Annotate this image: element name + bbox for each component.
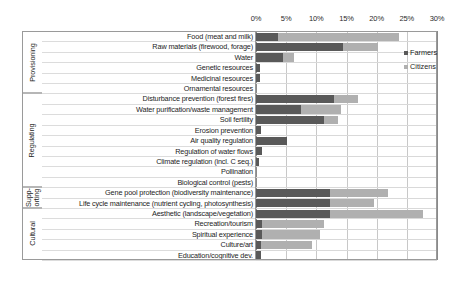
frame-left-edge xyxy=(22,31,23,260)
group-label: Provisioning xyxy=(28,43,37,82)
legend-label: Farmers xyxy=(410,48,437,57)
bar-farmers xyxy=(256,137,287,145)
bar-farmers xyxy=(256,105,301,113)
bar-farmers xyxy=(256,230,262,238)
bar-farmers xyxy=(256,33,278,41)
x-tick-label: 5% xyxy=(281,14,292,23)
label-divider xyxy=(255,31,256,260)
group-bracket: Cultural xyxy=(22,208,42,260)
category-axis: Food (meat and milk)Raw materials (firew… xyxy=(0,31,256,260)
x-tick-label: 25% xyxy=(399,14,414,23)
legend-swatch xyxy=(404,65,408,69)
x-tick-label: 0% xyxy=(251,14,262,23)
bar-farmers xyxy=(256,241,261,249)
bar-citizens xyxy=(256,241,312,249)
group-label: Cultural xyxy=(28,222,37,246)
bar-farmers xyxy=(256,43,343,51)
bar-farmers xyxy=(256,199,330,207)
x-tick-label: 20% xyxy=(369,14,384,23)
bar-farmers xyxy=(256,220,262,228)
legend-item: Farmers xyxy=(404,47,437,58)
group-bracket: Supp-orting xyxy=(22,187,42,208)
category-label: Education/cognitive dev. xyxy=(178,250,253,261)
x-tick-label: 15% xyxy=(339,14,354,23)
bar-citizens xyxy=(256,220,324,228)
bar-farmers xyxy=(256,116,324,124)
legend-label: Citizens xyxy=(410,62,436,71)
group-bracket: Provisioning xyxy=(22,31,42,93)
bar-farmers xyxy=(256,53,283,61)
group-label: Supp-orting xyxy=(24,188,39,207)
bar-farmers xyxy=(256,95,334,103)
bar-farmers xyxy=(256,251,261,259)
group-label: Regulating xyxy=(28,123,37,157)
bar-farmers xyxy=(256,147,262,155)
bar-farmers xyxy=(256,210,330,218)
bar-citizens xyxy=(256,230,320,238)
x-tick-label: 30% xyxy=(430,14,445,23)
legend-item: Citizens xyxy=(404,61,437,72)
ecosystem-services-bar-chart: Food (meat and milk)Raw materials (firew… xyxy=(0,0,462,284)
legend: FarmersCitizens xyxy=(404,47,437,75)
bar-farmers xyxy=(256,74,260,82)
bar-farmers xyxy=(256,189,330,197)
x-tick-label: 10% xyxy=(309,14,324,23)
legend-swatch xyxy=(404,51,408,55)
bar-row xyxy=(256,250,437,261)
bar-farmers xyxy=(256,64,260,72)
bar-farmers xyxy=(256,126,261,134)
bar-farmers xyxy=(256,158,259,166)
group-bracket: Regulating xyxy=(22,93,42,187)
x-axis-tick-labels: 0%5%10%15%20%25%30% xyxy=(256,14,437,28)
